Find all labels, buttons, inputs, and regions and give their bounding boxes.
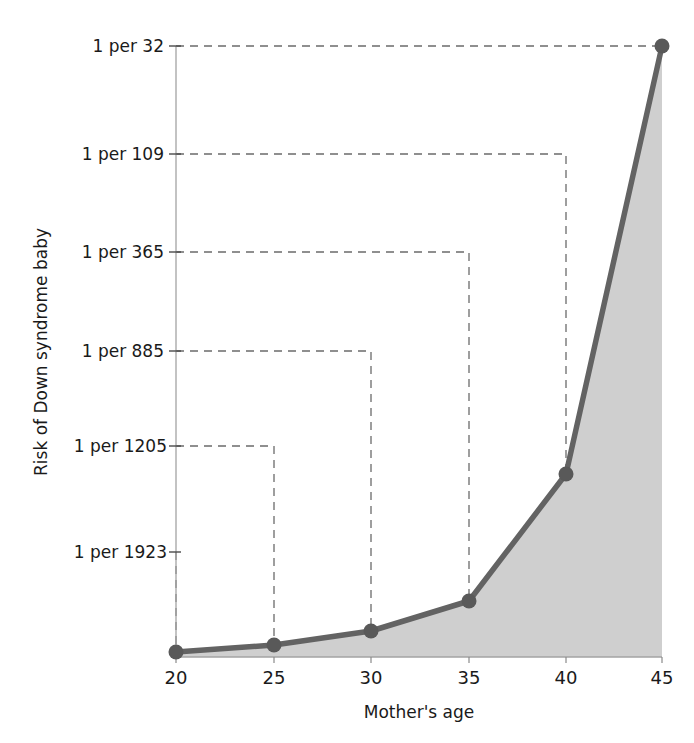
data-point-age-40[interactable] — [559, 467, 574, 482]
y-tick-label-4: 1 per 885 — [82, 341, 164, 361]
y-tick-label-2: 1 per 109 — [82, 144, 164, 164]
data-point-age-25[interactable] — [267, 638, 282, 653]
y-tick-label-5: 1 per 1205 — [74, 436, 167, 456]
x-tick-label-1: 20 — [165, 667, 188, 688]
data-point-age-35[interactable] — [462, 594, 477, 609]
x-tick-label-2: 25 — [263, 667, 286, 688]
y-tick-label-3: 1 per 365 — [82, 242, 164, 262]
y-tick-label-1: 1 per 32 — [93, 36, 165, 56]
x-tick-label-3: 30 — [360, 667, 383, 688]
x-tick-label-5: 40 — [555, 667, 578, 688]
chart-container: 1 per 32 1 per 109 1 per 365 1 per 885 1… — [0, 0, 694, 743]
x-axis-title: Mother's age — [364, 702, 475, 722]
x-tick-label-6: 45 — [651, 667, 674, 688]
data-point-age-30[interactable] — [364, 624, 379, 639]
x-tick-label-4: 35 — [458, 667, 481, 688]
y-tick-label-6: 1 per 1923 — [74, 542, 167, 562]
down-syndrome-risk-line-chart: 1 per 32 1 per 109 1 per 365 1 per 885 1… — [0, 0, 694, 743]
data-point-age-45[interactable] — [655, 39, 670, 54]
data-point-age-20[interactable] — [169, 645, 184, 660]
y-axis-title: Risk of Down syndrome baby — [31, 228, 51, 476]
